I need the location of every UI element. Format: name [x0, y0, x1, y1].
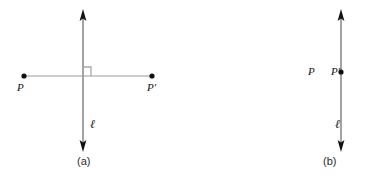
- panel-a-graphics: [0, 0, 187, 182]
- diagram-panel-a: P P′ ℓ (a): [0, 0, 187, 182]
- label-pprime-a: P′: [147, 82, 156, 93]
- caption-a: (a): [77, 156, 90, 167]
- label-line-ell-b: ℓ: [335, 118, 340, 130]
- label-p-a: P: [17, 82, 24, 93]
- line-ell-a: [80, 9, 87, 152]
- caption-b: (b): [323, 156, 336, 167]
- label-p-b: P: [308, 66, 315, 77]
- diagram-panel-b: P P′ ℓ (b): [187, 0, 374, 182]
- right-angle-marker-icon: [83, 67, 91, 76]
- geometry-figure: P P′ ℓ (a) P P′ ℓ (b): [0, 0, 374, 182]
- label-pprime-b: P′: [331, 66, 340, 77]
- point-pprime-a: [149, 73, 154, 78]
- point-p-a: [21, 73, 26, 78]
- panel-b-graphics: [187, 0, 374, 182]
- label-line-ell-a: ℓ: [90, 118, 95, 130]
